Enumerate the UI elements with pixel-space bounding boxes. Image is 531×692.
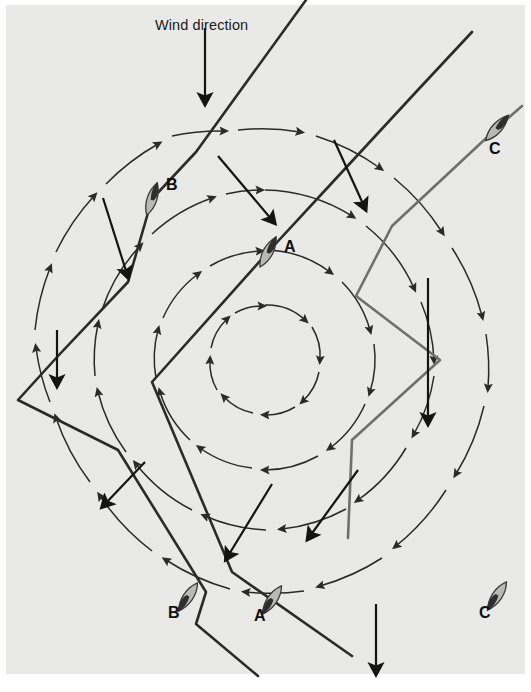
wind-arrow-6 — [228, 484, 272, 556]
boat-b-upper — [142, 180, 162, 216]
boat-label-c-lower: C — [479, 604, 491, 622]
wind-arrow-9 — [310, 470, 358, 536]
streamline-circle-1 — [210, 305, 320, 415]
boat-label-b-lower: B — [168, 604, 180, 622]
boat-label-c-upper: C — [489, 140, 501, 158]
wind-vector-arrows — [57, 28, 428, 670]
track-boat-b — [18, 0, 306, 676]
wind-arrow-3 — [103, 198, 127, 274]
track-boat-a — [152, 32, 472, 656]
boat-label-b-upper: B — [166, 176, 178, 194]
streamline-circle-2 — [154, 250, 375, 470]
track-boat-c — [348, 106, 522, 538]
boat-label-a-upper: A — [284, 238, 296, 256]
boat-label-a-lower: A — [254, 607, 266, 625]
figure-root: Wind direction A B C A B C — [0, 0, 531, 692]
wind-direction-label: Wind direction — [155, 17, 248, 33]
wind-arrow-2 — [218, 156, 272, 220]
diagram-svg — [0, 0, 531, 692]
